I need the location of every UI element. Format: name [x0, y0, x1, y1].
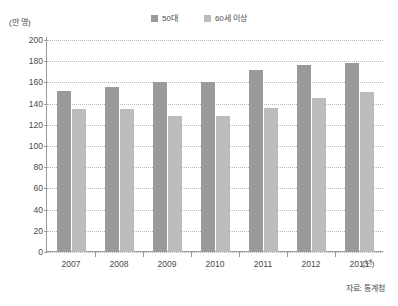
bar-group	[287, 40, 335, 252]
bar-group	[47, 40, 95, 252]
x-axis-tick-label-2007: 2007	[62, 259, 81, 269]
x-axis-tick-label-2012: 2012	[302, 259, 321, 269]
y-axis-tick-label: 100	[29, 142, 43, 151]
y-axis-tick-label: 0	[38, 248, 43, 257]
chart-container: 50대 60세 이상 (만 명) (년) 0204060801001201401…	[0, 0, 398, 306]
gridline	[47, 252, 383, 253]
bar-group	[95, 40, 143, 252]
bar-group	[335, 40, 383, 252]
bar-2013-series-1	[345, 63, 359, 252]
source-note: 자료: 통계청	[346, 284, 385, 293]
x-axis-tick-label-2011: 2011	[254, 259, 272, 269]
x-axis-tick-label-2008: 2008	[110, 259, 129, 269]
bar-2007-series-1	[57, 91, 71, 252]
y-axis-tick-label: 120	[29, 120, 43, 129]
y-axis-tick-mark	[44, 252, 47, 253]
bar-groups	[47, 40, 383, 252]
y-axis-tick-label: 20	[34, 226, 43, 235]
bar-2013-series-2	[360, 92, 374, 252]
y-axis-tick-label: 160	[29, 78, 43, 87]
y-axis-tick-label: 180	[29, 57, 43, 66]
x-axis-tick-label-2010: 2010	[206, 259, 225, 269]
x-axis-separator	[239, 252, 240, 257]
bar-2008-series-1	[105, 87, 119, 252]
chart-legend: 50대 60세 이상	[0, 14, 398, 23]
bar-group	[191, 40, 239, 252]
plot-area: 020406080100120140160180200 200720082009…	[47, 40, 383, 252]
legend-item-50dae: 50대	[151, 14, 178, 23]
legend-label-series-2: 60세 이상	[215, 14, 247, 23]
bar-2007-series-2	[72, 109, 86, 252]
bar-2012-series-2	[312, 98, 326, 252]
bar-group	[143, 40, 191, 252]
y-axis-tick-label: 140	[29, 99, 43, 108]
bar-2009-series-1	[153, 82, 167, 252]
bar-2011-series-1	[249, 70, 263, 252]
x-axis-separator	[143, 252, 144, 257]
x-axis-separator	[287, 252, 288, 257]
bar-2009-series-2	[168, 116, 182, 252]
bar-group	[239, 40, 287, 252]
bar-2012-series-1	[297, 65, 311, 252]
x-axis-separator	[335, 252, 336, 257]
legend-label-series-1: 50대	[162, 14, 178, 23]
y-axis-unit-label: (만 명)	[9, 18, 31, 27]
x-axis-tick-label-2009: 2009	[158, 259, 177, 269]
legend-swatch-series-2	[204, 15, 211, 22]
bar-2011-series-2	[264, 108, 278, 252]
x-axis-tick-label-2013: 2013	[350, 259, 369, 269]
legend-swatch-series-1	[151, 15, 158, 22]
y-axis-tick-label: 80	[34, 163, 43, 172]
bar-2010-series-2	[216, 116, 230, 252]
bar-2008-series-2	[120, 109, 134, 252]
y-axis-tick-label: 200	[29, 36, 43, 45]
legend-item-60se-isang: 60세 이상	[204, 14, 247, 23]
y-axis-tick-label: 40	[34, 205, 43, 214]
x-axis-separator	[191, 252, 192, 257]
x-axis-separator	[95, 252, 96, 257]
y-axis-tick-label: 60	[34, 184, 43, 193]
bar-2010-series-1	[201, 82, 215, 252]
